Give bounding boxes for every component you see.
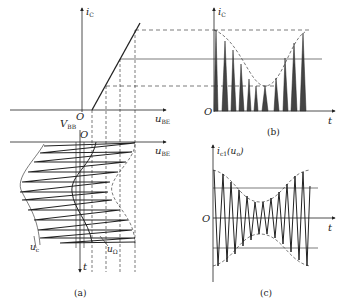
svg-text:O: O [76,111,84,122]
svg-text:iC: iC [86,6,94,18]
panel-b-ic-pulses [214,8,335,112]
caption-b: (b) [267,127,280,137]
panel-c-labels: ic1(uo) O t (c) [202,146,333,298]
svg-text:ic1(uo): ic1(uo) [217,146,244,157]
svg-text:uc: uc [30,242,40,253]
am-modulation-figure: iC uBE VBB O O uBE t uc uΩ (a) i [0,0,351,306]
svg-text:uΩ: uΩ [107,244,118,255]
svg-text:O: O [80,129,88,140]
svg-text:t: t [328,222,333,233]
caption-a: (a) [74,288,86,298]
svg-text:O: O [202,213,210,224]
svg-text:iC: iC [218,6,226,18]
a-transfer-line [92,23,140,110]
svg-text:t: t [83,261,88,272]
svg-text:O: O [204,106,212,117]
svg-text:uBE: uBE [155,145,170,157]
panel-c-ic1-am-wave [213,145,335,282]
svg-text:VBB: VBB [60,118,77,130]
svg-text:t: t [328,115,333,126]
panel-b-labels: iC O t (b) [204,6,333,137]
caption-c: (c) [260,288,272,298]
svg-text:uBE: uBE [155,113,170,125]
